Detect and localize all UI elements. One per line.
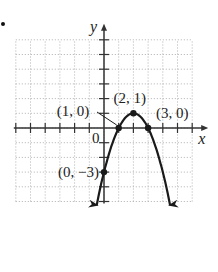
- parabola-graph: (1, 0)(2, 1)(3, 0)(0, −3) yx0: [0, 0, 218, 272]
- svg-text:(0, −3): (0, −3): [58, 164, 99, 181]
- svg-text:x: x: [197, 130, 205, 147]
- svg-text:(2, 1): (2, 1): [113, 90, 145, 107]
- labeled-points: (1, 0)(2, 1)(3, 0)(0, −3): [57, 90, 189, 181]
- svg-text:(3, 0): (3, 0): [156, 105, 189, 122]
- svg-text:0: 0: [92, 130, 100, 146]
- svg-text:y: y: [88, 18, 98, 36]
- svg-text:(1, 0): (1, 0): [57, 103, 89, 120]
